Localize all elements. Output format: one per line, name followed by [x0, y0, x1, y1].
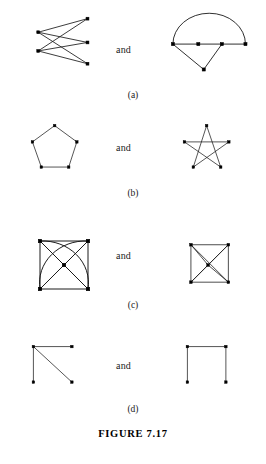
- graph-vertex: [86, 17, 89, 20]
- graph-vertex: [205, 124, 208, 127]
- subfigure-label: (d): [0, 404, 266, 414]
- square-with-center-and-two-arcs: [14, 212, 114, 304]
- graph-edge: [184, 142, 220, 167]
- graph-vertex: [67, 166, 70, 169]
- graph-edge: [38, 51, 87, 64]
- graph-edge: [193, 126, 206, 167]
- graph-edge: [193, 142, 229, 167]
- graph-edge: [40, 265, 64, 289]
- complete-bipartite-k23: [28, 6, 113, 84]
- graph-panel-right: [180, 336, 254, 406]
- graph-edge: [64, 265, 88, 289]
- pentagram-star-c5: [180, 118, 254, 188]
- graph-vertex: [86, 239, 89, 242]
- graph-edge: [173, 44, 204, 69]
- path-with-arc-and-triangle: [162, 6, 260, 84]
- conjunction-and: and: [116, 250, 131, 261]
- conjunction-and: and: [116, 142, 131, 153]
- graph-vertex: [219, 166, 222, 169]
- conjunction-and: and: [116, 44, 131, 55]
- graph-vertex: [192, 166, 195, 169]
- graph-edge: [38, 19, 87, 51]
- graph-edge: [33, 347, 71, 383]
- graph-vertex: [220, 43, 223, 46]
- graph-vertex: [32, 381, 35, 384]
- graph-panel-right: [162, 6, 260, 84]
- figure-row-c: and(c): [0, 212, 266, 316]
- graph-edge: [191, 265, 208, 282]
- graph-edge: [38, 19, 87, 33]
- graph-vertex: [202, 68, 205, 71]
- graph-vertex: [207, 264, 210, 267]
- graph-vertex: [38, 239, 41, 242]
- graph-vertex: [37, 50, 40, 53]
- graph-edge: [38, 42, 87, 51]
- graph-vertex: [37, 31, 40, 34]
- graph-vertex: [76, 141, 79, 144]
- graph-edge: [64, 241, 88, 265]
- pentagon-cycle-c5: [28, 118, 102, 188]
- star-k13-three-leaves: [26, 336, 100, 406]
- figure-row-b: and(b): [0, 118, 266, 204]
- graph-vertex: [86, 41, 89, 44]
- graph-vertex: [228, 141, 231, 144]
- graph-edge: [208, 245, 228, 265]
- subfigure-label: (b): [0, 188, 266, 198]
- graph-vertex: [86, 62, 89, 65]
- graph-edge: [32, 126, 54, 142]
- graph-vertex: [227, 243, 230, 246]
- graph-vertex: [40, 166, 43, 169]
- graph-vertex: [38, 287, 41, 290]
- graph-vertex: [86, 287, 89, 290]
- graph-edge: [69, 142, 77, 167]
- graph-edge: [207, 126, 221, 167]
- graph-vertex: [186, 345, 189, 348]
- figure-7-17: and(a)and(b)and(c)and(d)FIGURE 7.17: [0, 0, 266, 464]
- graph-vertex: [225, 381, 228, 384]
- graph-edge: [55, 126, 77, 142]
- graph-vertex: [197, 43, 200, 46]
- graph-arc: [173, 13, 246, 44]
- graph-vertex: [225, 345, 228, 348]
- graph-panel-left: [28, 6, 113, 84]
- graph-edge: [40, 241, 64, 265]
- graph-panel-left: [28, 118, 102, 188]
- graph-edge: [208, 265, 228, 282]
- graph-edge: [204, 44, 222, 69]
- graph-vertex: [53, 124, 56, 127]
- subfigure-label: (c): [0, 300, 266, 310]
- graph-vertex: [171, 43, 174, 46]
- graph-vertex: [190, 243, 193, 246]
- subfigure-label: (a): [0, 90, 266, 100]
- figure-row-a: and(a): [0, 6, 266, 106]
- graph-vertex: [71, 345, 74, 348]
- graph-vertex: [31, 141, 34, 144]
- conjunction-and: and: [116, 360, 131, 371]
- graph-vertex: [227, 281, 230, 284]
- graph-panel-left: [14, 212, 114, 304]
- graph-edge: [32, 142, 41, 167]
- graph-vertex: [71, 381, 74, 384]
- graph-vertex: [186, 381, 189, 384]
- graph-vertex: [183, 141, 186, 144]
- graph-vertex: [190, 281, 193, 284]
- graph-vertex: [62, 263, 65, 266]
- figure-row-d: and(d): [0, 336, 266, 420]
- graph-edge: [191, 245, 208, 265]
- graph-panel-right: [180, 212, 258, 304]
- graph-panel-right: [180, 118, 254, 188]
- path-p4-open-square: [180, 336, 254, 406]
- graph-panel-left: [26, 336, 100, 406]
- square-with-center-and-diagonals: [180, 212, 258, 304]
- graph-vertex: [32, 345, 35, 348]
- graph-vertex: [244, 43, 247, 46]
- figure-caption: FIGURE 7.17: [0, 428, 266, 439]
